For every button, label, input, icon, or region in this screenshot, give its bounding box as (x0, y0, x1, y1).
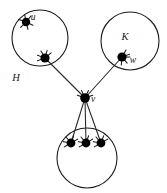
region-label-H: H (11, 72, 21, 83)
graph-figure: HKuwv (0, 0, 167, 193)
node-dot-w (117, 52, 126, 61)
node-dot-u (22, 18, 30, 26)
node-dot-h2 (40, 53, 49, 62)
graph-edge-v-b2 (85, 98, 86, 143)
node-label-u: u (31, 12, 36, 22)
graph-edge-v-b3 (85, 98, 101, 143)
graph-edge-w-v (85, 57, 122, 98)
node-dot-b3 (97, 139, 106, 148)
node-label-v: v (91, 94, 96, 104)
region-label-K: K (120, 31, 129, 42)
node-label-w: w (130, 55, 137, 65)
graph-edge-h2-v (45, 58, 85, 98)
node-dot-v (80, 93, 90, 103)
region-circle-H (12, 10, 68, 66)
graph-canvas: HKuwv (0, 0, 167, 193)
node-dot-b1 (67, 139, 76, 148)
node-dot-b2 (82, 139, 91, 148)
graph-nodes-group (19, 15, 130, 148)
